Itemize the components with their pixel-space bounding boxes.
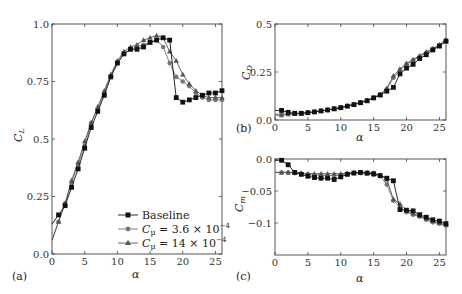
square-marker-icon [332,177,337,182]
legend-item-cmu-14: Cμ = 14 × 10−4 [118,236,227,251]
x-tick-label: 10 [111,256,124,267]
panel-c-cm-vs-alpha: 05101520250.0−0.05−0.1 [241,154,448,269]
square-marker-icon [384,176,389,181]
square-marker-icon [444,221,449,226]
x-axis-label-c: α [356,272,364,285]
square-marker-icon [417,56,422,61]
square-marker-icon [371,96,376,101]
square-marker-icon [437,219,442,224]
square-marker-icon [213,91,218,96]
square-marker-icon [384,89,389,94]
x-axis-label-b: α [356,131,364,144]
x-tick-label: 25 [433,122,446,133]
y-tick-label: 0.0 [33,249,49,260]
legend-item-baseline: Baseline [118,209,189,222]
panel-label-c: (c) [236,270,251,283]
square-marker-icon [89,125,94,130]
square-marker-icon [200,93,205,98]
square-marker-icon [141,45,146,50]
x-tick-label: 20 [400,122,413,133]
square-marker-icon [358,170,363,175]
y-axis-label-cd: CD [240,65,254,80]
square-marker-icon [378,93,383,98]
y-tick-label: 1.0 [33,19,49,30]
figure: 05101520250.00.250.50.751.0 05101520250.… [0,0,462,294]
square-marker-icon [207,91,212,96]
series-triangle [52,33,225,241]
square-marker-icon [444,39,449,44]
square-marker-icon [161,35,166,40]
square-marker-icon [56,213,61,218]
circle-marker-icon [126,227,131,232]
x-tick-label: 20 [400,257,413,268]
square-marker-icon [220,88,225,93]
square-marker-icon [279,158,284,163]
square-marker-icon [358,100,363,105]
plot-frame [52,24,222,254]
square-marker-icon [63,203,68,208]
triangle-marker-icon [154,33,159,38]
square-marker-icon [437,44,442,49]
square-marker-icon [345,172,350,177]
square-marker-icon [187,98,192,103]
square-marker-icon [404,66,409,71]
x-tick-label: 0 [272,122,278,133]
square-marker-icon [148,40,153,45]
legend-label-cmu-14: Cμ = 14 × 10−4 [142,236,227,251]
y-tick-label: 0.0 [256,154,272,165]
y-axis-label-cl: CL [12,128,26,142]
triangle-marker-icon [125,240,131,245]
y-tick-label: 0.5 [256,19,272,30]
x-tick-label: 0 [272,257,278,268]
square-marker-icon [325,108,330,113]
circle-marker-icon [161,45,166,50]
square-marker-icon [115,61,120,66]
x-tick-label: 5 [305,257,311,268]
square-marker-icon [371,171,376,176]
square-marker-icon [135,47,140,52]
square-marker-icon [312,175,317,180]
square-marker-icon [180,100,185,105]
square-marker-icon [398,72,403,77]
x-tick-label: 15 [144,256,157,267]
square-marker-icon [154,38,159,43]
square-marker-icon [108,75,113,80]
square-marker-icon [319,109,324,114]
series-circle [52,38,224,240]
square-marker-icon [345,104,350,109]
triangle-marker-icon [180,72,185,77]
square-marker-icon [193,95,198,100]
y-tick-label: −0.1 [248,218,272,229]
x-tick-label: 25 [433,257,446,268]
y-tick-label: 0.5 [33,134,49,145]
x-tick-label: 25 [209,256,222,267]
square-marker-icon [305,174,310,179]
square-marker-icon [305,110,310,115]
legend-label-baseline: Baseline [142,209,189,222]
square-marker-icon [338,105,343,110]
square-marker-icon [299,111,304,116]
x-tick-label: 15 [367,257,380,268]
panel-b-cd-vs-alpha: 05101520250.00.250.5 [250,19,449,134]
square-marker-icon [365,171,370,176]
plot-frame [275,24,446,120]
triangle-marker-icon [391,197,396,202]
series-square [275,39,448,116]
square-marker-icon [286,162,291,167]
y-tick-label: 0.0 [256,115,272,126]
square-marker-icon [279,108,284,113]
square-marker-icon [430,217,435,222]
legend: Baseline Cμ = 3.6 × 10−4 Cμ = 14 × 10−4 [118,209,230,251]
square-marker-icon [332,106,337,111]
legend-item-cmu-3-6: Cμ = 3.6 × 10−4 [118,222,230,237]
square-marker-icon [82,146,87,151]
x-axis-label-a: α [132,268,140,281]
square-marker-icon [95,109,100,114]
triangle-marker-icon [134,42,139,47]
square-marker-icon [319,176,324,181]
square-marker-icon [102,93,107,98]
square-marker-icon [128,47,133,52]
square-marker-icon [391,178,396,183]
series-circle [275,170,448,228]
panel-label-a: (a) [12,270,27,283]
